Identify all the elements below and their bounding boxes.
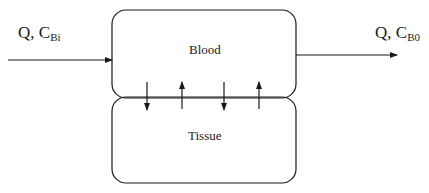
tissue-label: Tissue — [188, 128, 221, 144]
inlet-label: Q, CBi — [18, 23, 61, 43]
inlet-flow-symbol: Q — [18, 23, 30, 42]
outlet-separator: , — [387, 23, 396, 42]
inlet-conc-symbol: C — [39, 23, 50, 42]
diagram-canvas — [0, 0, 429, 193]
outlet-conc-symbol: C — [396, 23, 407, 42]
outlet-flow-symbol: Q — [375, 23, 387, 42]
inlet-conc-subscript: Bi — [50, 31, 60, 43]
blood-label: Blood — [189, 42, 221, 58]
outlet-label: Q, CB0 — [375, 23, 420, 43]
outlet-conc-subscript: B0 — [407, 31, 420, 43]
inlet-separator: , — [30, 23, 39, 42]
